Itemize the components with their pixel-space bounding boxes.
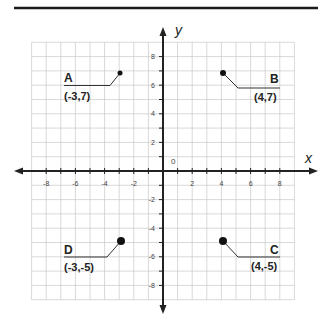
point-b-name: B bbox=[270, 72, 279, 86]
y-axis-up-arrow-icon bbox=[160, 27, 167, 36]
x-tick-label: 6 bbox=[249, 180, 253, 187]
point-d-coord: (-3,-5) bbox=[64, 261, 94, 273]
point-b-coord: (4,7) bbox=[254, 91, 277, 103]
origin-label: 0 bbox=[171, 157, 176, 166]
x-tick-label: -6 bbox=[72, 180, 78, 187]
point-d-marker bbox=[117, 237, 125, 245]
y-axis-label: y bbox=[174, 22, 183, 38]
x-tick-label: -4 bbox=[101, 180, 107, 187]
y-tick-label: -6 bbox=[149, 253, 155, 260]
x-axis-right-arrow-icon bbox=[309, 168, 318, 175]
point-c-coord: (4,-5) bbox=[251, 260, 278, 272]
point-c-name: C bbox=[270, 243, 279, 257]
coordinate-plane-figure: -8-6-4-224688642-2-4-6-8 y x 0 A (-3,7) … bbox=[0, 0, 328, 328]
x-tick-label: 8 bbox=[278, 180, 282, 187]
y-tick-label: 6 bbox=[151, 82, 155, 89]
coordinate-plane-svg: -8-6-4-224688642-2-4-6-8 y x 0 A (-3,7) … bbox=[0, 0, 328, 328]
x-tick-label: 4 bbox=[219, 180, 223, 187]
point-a-marker bbox=[118, 71, 123, 76]
point-b-marker bbox=[220, 70, 226, 76]
point-a-name: A bbox=[64, 71, 73, 85]
point-b: B (4,7) bbox=[220, 70, 280, 103]
x-tick-label: -8 bbox=[43, 180, 49, 187]
x-axis-left-arrow-icon bbox=[14, 168, 23, 175]
point-c-marker bbox=[219, 237, 227, 245]
y-tick-label: -2 bbox=[149, 196, 155, 203]
x-tick-label: -2 bbox=[131, 180, 137, 187]
x-tick-label: 2 bbox=[190, 180, 194, 187]
point-d-name: D bbox=[64, 243, 73, 257]
y-tick-label: -4 bbox=[149, 225, 155, 232]
point-a-coord: (-3,7) bbox=[64, 90, 91, 102]
y-tick-label: 8 bbox=[151, 53, 155, 60]
x-axis bbox=[14, 168, 318, 175]
y-axis-down-arrow-icon bbox=[160, 305, 167, 314]
x-axis-label: x bbox=[304, 150, 313, 166]
y-tick-label: 4 bbox=[151, 110, 155, 117]
point-a: A (-3,7) bbox=[64, 71, 123, 103]
y-tick-label: -8 bbox=[149, 282, 155, 289]
y-tick-label: 2 bbox=[151, 139, 155, 146]
